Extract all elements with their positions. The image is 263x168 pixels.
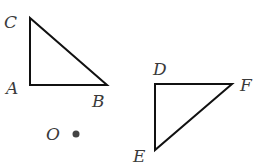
triangle-def-shape xyxy=(155,84,232,150)
triangle-abc-shape xyxy=(30,18,107,85)
triangle-abc: C A B xyxy=(4,12,107,111)
point-o-dot xyxy=(73,131,80,138)
label-c: C xyxy=(4,12,17,32)
point-o: O xyxy=(46,124,80,144)
label-e: E xyxy=(132,146,146,166)
label-o: O xyxy=(46,124,60,144)
label-f: F xyxy=(239,75,253,95)
geometry-diagram: C A B D F E O xyxy=(0,0,263,168)
triangle-def: D F E xyxy=(132,59,253,166)
label-b: B xyxy=(91,91,105,111)
label-a: A xyxy=(4,78,18,98)
label-d: D xyxy=(152,59,167,79)
